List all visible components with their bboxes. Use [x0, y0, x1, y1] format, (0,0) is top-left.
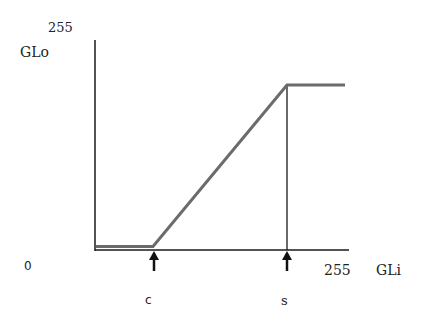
y-axis-label: GLo — [20, 45, 49, 59]
marker-c-label: c — [145, 294, 152, 306]
arrow-up-icon-c — [149, 251, 159, 271]
x-axis-label: GLi — [376, 263, 401, 277]
marker-s-label: s — [281, 294, 288, 307]
y-axis-max-label: 255 — [48, 21, 73, 34]
x-axis-min-label: 0 — [24, 260, 32, 272]
transfer-curve — [96, 85, 345, 247]
x-axis-max-label: 255 — [324, 263, 351, 277]
contrast-stretch-diagram: 255 GLo 0 255 GLi c s — [0, 0, 429, 322]
arrow-up-icon-s — [282, 251, 292, 271]
diagram-canvas — [0, 0, 429, 322]
